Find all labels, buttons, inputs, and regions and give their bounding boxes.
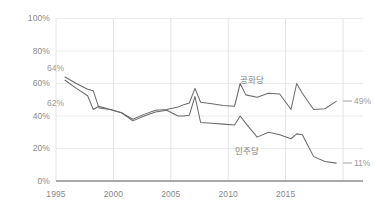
y-tick-100: 100% — [18, 13, 50, 23]
x-tick-2005: 2005 — [151, 189, 191, 199]
x-tick-2000: 2000 — [93, 189, 133, 199]
start-value-label-lower: 62% — [47, 98, 64, 108]
start-value-label-upper: 64% — [47, 63, 64, 73]
series-label-gonghwadang: 공화당 — [240, 73, 264, 85]
y-tick-40: 40% — [18, 111, 50, 121]
x-tick-2015: 2015 — [266, 189, 306, 199]
gridlines — [56, 19, 363, 182]
series-line-group — [65, 77, 336, 163]
y-tick-20: 20% — [18, 143, 50, 153]
x-tick-2010: 2010 — [208, 189, 248, 199]
y-tick-0: 0% — [18, 176, 50, 186]
y-tick-80: 80% — [18, 46, 50, 56]
end-value-label-upper: 49% — [354, 96, 371, 106]
end-value-label-lower: 11% — [354, 158, 370, 168]
y-tick-60: 60% — [18, 78, 50, 88]
x-tick-1995: 1995 — [36, 189, 76, 199]
series-line-minjudang — [65, 80, 336, 163]
series-label-minjudang: 민주당 — [235, 144, 259, 156]
annotation-leader-lines — [343, 101, 352, 163]
line-chart: 100% 80% 60% 40% 20% 0% 1995 2000 2005 2… — [0, 0, 377, 213]
